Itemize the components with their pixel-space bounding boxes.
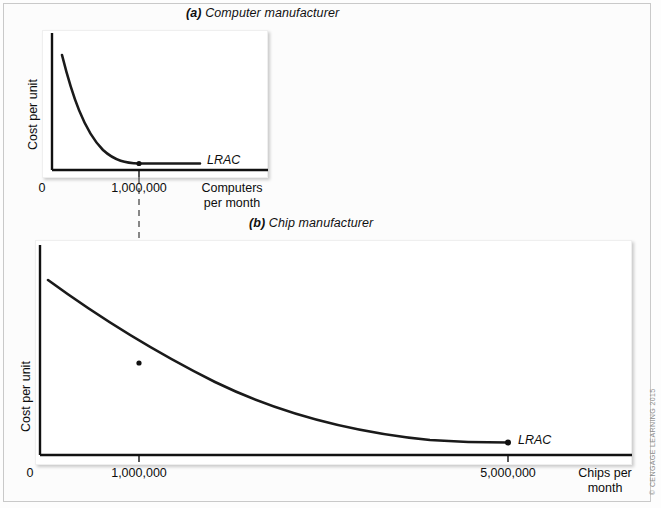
panel-b-x-axis-label-line2: month <box>567 481 643 496</box>
panel-b-curve-label: LRAC <box>518 433 551 447</box>
panel-b-mes-point <box>505 440 511 446</box>
panel-b-tick-one-million: 1,000,000 <box>98 466 180 480</box>
panel-b-tick-origin: 0 <box>20 466 40 480</box>
copyright-notice: © CENGAGE LEARNING 2015 <box>649 388 656 495</box>
panel-b-one-million-point <box>136 360 141 365</box>
panel-b-graphics <box>0 0 661 508</box>
panel-b-x-axis-label: Chips per month <box>567 466 643 496</box>
panel-b-tick-five-million: 5,000,000 <box>467 466 549 480</box>
panel-b-x-axis-label-line1: Chips per <box>567 466 643 481</box>
figure-container: (a) Computer manufacturer Cost per unit … <box>0 0 661 508</box>
panel-b-lrac-curve <box>48 280 508 443</box>
